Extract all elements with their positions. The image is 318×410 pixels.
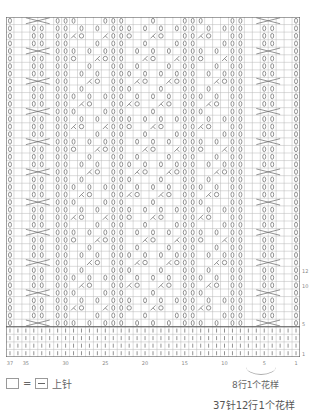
row-number: 12 (302, 268, 308, 274)
column-number: 15 (182, 360, 188, 366)
knitting-chart (6, 17, 300, 357)
column-number: 25 (102, 360, 108, 366)
legend-label: 上针 (52, 376, 72, 391)
row-number: 5 (302, 321, 305, 327)
repeat-rows-note: 8行1个花样 (232, 378, 279, 391)
column-number: 10 (221, 360, 227, 366)
column-number: 1 (294, 360, 297, 366)
row-number: 1 (302, 351, 305, 357)
column-number: 35 (23, 360, 29, 366)
purl-symbol-icon (35, 378, 48, 389)
column-number: 30 (62, 360, 68, 366)
column-number: 20 (142, 360, 148, 366)
empty-square-icon (6, 378, 19, 389)
legend: = 上针 (6, 377, 72, 389)
column-number: 37 (7, 360, 13, 366)
pattern-repeat-note: 37针12行1个花样 (213, 397, 295, 410)
repeat-bracket (246, 358, 276, 375)
legend-equals: = (23, 378, 31, 389)
row-number: 10 (302, 283, 308, 289)
